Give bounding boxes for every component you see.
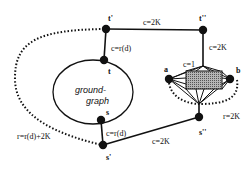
label-node-b: b xyxy=(236,66,241,75)
label-s-sprime: c=r(d) xyxy=(106,129,126,138)
label-node-s-dprime: s'' xyxy=(199,128,207,137)
ground-graph-label-2: graph xyxy=(86,96,109,106)
gadget-box xyxy=(186,71,222,89)
node-s-dprime xyxy=(195,113,203,121)
label-tdprime-gadget: c=2K xyxy=(209,43,227,52)
edge-tprime-t xyxy=(104,29,106,60)
label-sprime-sdprime: c=2K xyxy=(152,137,170,146)
label-node-t-dprime: t'' xyxy=(199,14,206,23)
ground-graph-label-1: ground- xyxy=(75,85,106,95)
label-node-t: t xyxy=(108,67,111,76)
label-tprime-t: c=r(d) xyxy=(111,44,131,53)
node-s-prime xyxy=(99,141,107,149)
node-s xyxy=(97,116,105,124)
label-gadget-top: c=1 xyxy=(183,60,195,69)
request-label-tprime-sprime: r=r(d)+2K xyxy=(17,132,51,141)
node-t-prime xyxy=(102,25,110,33)
diagram-canvas: ground- graph r=r(d)+2K c=2K c=2K c=r(d)… xyxy=(0,0,252,169)
edge-tprime-tdprime xyxy=(106,29,203,30)
label-node-a: a xyxy=(164,65,168,74)
label-node-t-prime: t' xyxy=(108,14,113,23)
label-node-s-prime: s' xyxy=(106,153,111,162)
label-tprime-tdprime: c=2K xyxy=(143,18,161,27)
node-t xyxy=(100,56,108,64)
request-label-a-b: r=2K xyxy=(223,112,240,121)
label-node-s: s xyxy=(106,108,109,117)
node-t-dprime xyxy=(199,26,207,34)
node-b xyxy=(226,75,234,83)
gadget xyxy=(169,66,230,117)
node-a xyxy=(165,75,173,83)
